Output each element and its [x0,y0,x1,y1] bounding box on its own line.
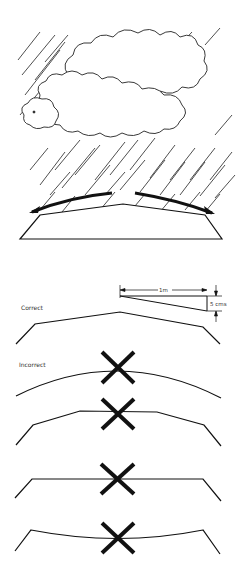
dimension-run-label: 1m [159,287,168,293]
profile-correct [16,312,220,344]
arrow-head-left-icon [29,206,40,213]
cross-mark-icon [102,399,134,429]
slope-dimension [120,285,222,322]
label-correct: Correct [21,304,44,311]
profile-incorrect-flat [15,479,221,501]
label-incorrect: Incorrect [19,361,46,368]
road-cross-section-rain [20,193,222,239]
cross-mark-icon [102,352,134,383]
road-camber-diagram: Correct 1m 5 cms Incorrect [0,0,242,583]
profile-incorrect-arched [16,371,221,398]
profile-incorrect-sagging [15,530,220,554]
dimension-rise-label: 5 cms [210,301,227,307]
storm-cloud [22,29,207,137]
